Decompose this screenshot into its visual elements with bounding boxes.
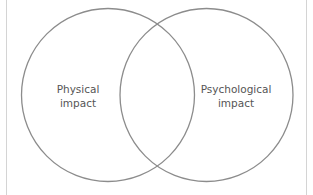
psychological-impact-label-line2: impact	[201, 96, 272, 110]
psychological-impact-label: Psychological impact	[201, 82, 272, 110]
physical-impact-label-line2: impact	[57, 96, 100, 110]
physical-impact-label: Physical impact	[57, 82, 100, 110]
psychological-impact-label-line1: Psychological	[201, 82, 272, 96]
physical-impact-circle	[22, 9, 195, 182]
physical-impact-label-line1: Physical	[57, 82, 100, 96]
